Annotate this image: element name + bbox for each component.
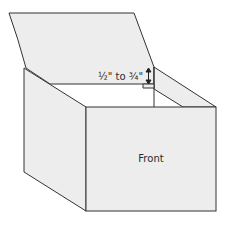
right-back-panel [154, 67, 216, 107]
box-diagram: ½" to ¾" Front [0, 0, 228, 226]
left-side-panel [24, 68, 86, 211]
measurement-label: ½" to ¾" [98, 71, 143, 82]
front-label: Front [138, 153, 163, 164]
